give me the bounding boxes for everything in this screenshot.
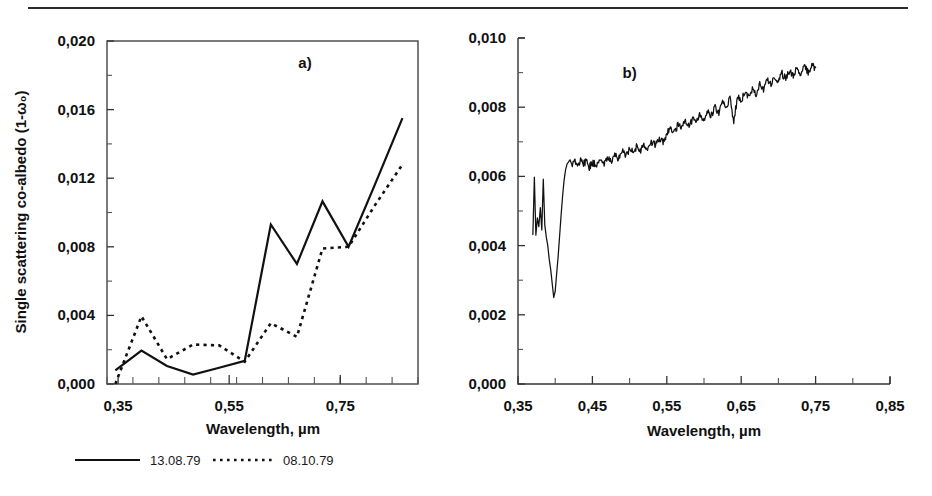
panel-b-x-axis: 0,350,450,550,650,750,85 bbox=[503, 376, 904, 414]
panel-a-y-axis: 0,0000,0040,0080,0120,0160,020 bbox=[57, 32, 114, 392]
y-tick-label: 0,004 bbox=[57, 306, 95, 323]
series-13.08.79 bbox=[115, 118, 402, 374]
y-axis-title: Single scattering co-albedo (1-ω₀) bbox=[12, 91, 29, 334]
x-tick-label: 0,35 bbox=[104, 397, 133, 414]
x-tick-label: 0,45 bbox=[578, 397, 607, 414]
legend: 13.08.7908.10.79 bbox=[75, 453, 334, 468]
y-tick-label: 0,002 bbox=[468, 306, 506, 323]
x-tick-label: 0,85 bbox=[875, 397, 904, 414]
x-axis-title: Wavelength, µm bbox=[647, 422, 761, 439]
x-tick-label: 0,35 bbox=[503, 397, 532, 414]
chart-panel-a: 0,0000,0040,0080,0120,0160,0200,350,550,… bbox=[0, 0, 466, 496]
y-tick-label: 0,006 bbox=[468, 167, 506, 184]
panel-a-x-axis: 0,350,550,75 bbox=[104, 375, 419, 414]
y-tick-label: 0,008 bbox=[468, 98, 506, 115]
y-tick-label: 0,004 bbox=[468, 237, 506, 254]
legend-label-0: 13.08.79 bbox=[150, 453, 201, 468]
x-tick-label: 0,75 bbox=[326, 397, 355, 414]
series-spectrum bbox=[533, 63, 816, 297]
y-tick-label: 0,000 bbox=[468, 375, 506, 392]
x-tick-label: 0,55 bbox=[215, 397, 244, 414]
series-08.10.79 bbox=[115, 164, 402, 384]
x-axis-title: Wavelength, µm bbox=[206, 420, 320, 437]
panel-b-axes bbox=[518, 38, 890, 384]
y-tick-label: 0,016 bbox=[57, 101, 95, 118]
y-tick-label: 0,000 bbox=[57, 375, 95, 392]
y-tick-label: 0,012 bbox=[57, 169, 95, 186]
x-tick-label: 0,65 bbox=[727, 397, 756, 414]
x-tick-label: 0,55 bbox=[652, 397, 681, 414]
y-tick-label: 0,010 bbox=[468, 29, 506, 46]
y-tick-label: 0,020 bbox=[57, 32, 95, 49]
figure-root: 0,0000,0040,0080,0120,0160,0200,350,550,… bbox=[0, 0, 932, 496]
legend-label-1: 08.10.79 bbox=[283, 453, 334, 468]
panel-b-y-axis: 0,0000,0020,0040,0060,0080,010 bbox=[468, 29, 525, 392]
panel-label-a: a) bbox=[298, 54, 311, 71]
y-tick-label: 0,008 bbox=[57, 238, 95, 255]
x-tick-label: 0,75 bbox=[801, 397, 830, 414]
chart-panel-b: 0,0000,0020,0040,0060,0080,0100,350,450,… bbox=[466, 0, 932, 496]
panel-label-b: b) bbox=[623, 64, 637, 81]
